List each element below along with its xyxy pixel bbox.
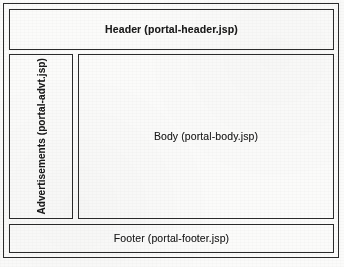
footer-region: Footer (portal-footer.jsp) <box>9 224 334 253</box>
footer-region-label: Footer (portal-footer.jsp) <box>114 233 229 245</box>
header-region: Header (portal-header.jsp) <box>9 9 334 50</box>
body-region: Body (portal-body.jsp) <box>78 54 334 219</box>
portal-layout-diagram: Header (portal-header.jsp) Advertisement… <box>0 0 344 267</box>
advertisements-region: Advertisements (portal-advt.jsp) <box>9 54 73 219</box>
header-region-label: Header (portal-header.jsp) <box>105 24 238 36</box>
body-region-label: Body (portal-body.jsp) <box>154 131 258 143</box>
advertisements-region-label: Advertisements (portal-advt.jsp) <box>36 58 47 215</box>
